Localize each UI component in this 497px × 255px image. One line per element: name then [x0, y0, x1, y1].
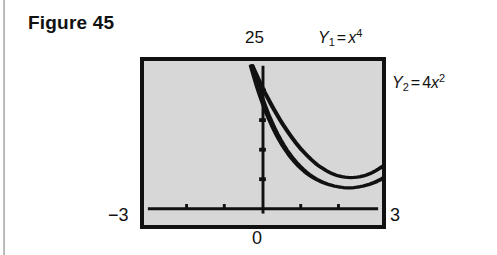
y2-equals: = [409, 74, 422, 91]
y2-rhs-variable: x [431, 74, 439, 91]
equation-label-y1: Y1=x4 [318, 27, 362, 48]
y1-rhs-exponent: 4 [356, 27, 362, 39]
equation-label-y2: Y2=4x2 [392, 72, 445, 93]
y2-coefficient: 4 [422, 74, 431, 91]
calculator-screen [140, 57, 386, 229]
plot-area [144, 61, 382, 225]
y1-variable: Y [318, 29, 329, 46]
y1-subscript: 1 [329, 36, 335, 48]
y1-equals: = [335, 29, 348, 46]
y-axis-max-label: 25 [245, 28, 264, 48]
x-axis-min-label: −3 [108, 205, 129, 226]
y2-subscript: 2 [403, 81, 409, 93]
y1-rhs-variable: x [348, 29, 356, 46]
plot-svg [144, 61, 382, 225]
page-edge-rule [3, 0, 5, 255]
y2-variable: Y [392, 74, 403, 91]
figure-page: Figure 45 [0, 0, 497, 255]
x-axis-max-label: 3 [390, 205, 400, 226]
y2-rhs-exponent: 2 [439, 72, 445, 84]
origin-label: 0 [252, 228, 262, 249]
curve-y1 [252, 66, 382, 188]
figure-title: Figure 45 [28, 12, 114, 34]
